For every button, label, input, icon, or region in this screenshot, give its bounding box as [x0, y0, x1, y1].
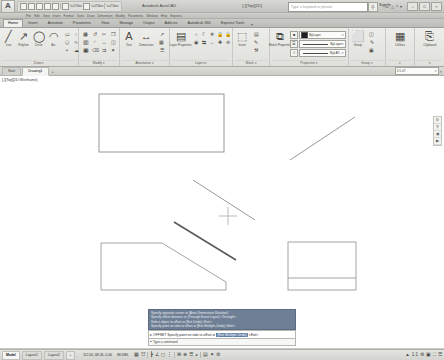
model-space-label[interactable]: MODEL: [117, 353, 129, 357]
annotation-scale-icon[interactable]: ▲: [405, 353, 409, 358]
annotation-scale-value[interactable]: 1:1: [412, 353, 418, 358]
tab-annotate[interactable]: Annotate: [43, 19, 68, 27]
chevron-down-icon-lt[interactable]: ▾: [342, 51, 344, 55]
panel-title-layers[interactable]: Layers ▾: [172, 60, 230, 66]
help-icon[interactable]: ?: [396, 5, 398, 9]
tab-manage[interactable]: Manage: [114, 19, 138, 27]
undo-icon[interactable]: [62, 3, 69, 10]
grid-icon[interactable]: ▦: [134, 353, 139, 358]
menu-item-tools[interactable]: Tools: [77, 14, 84, 18]
mtext-icon[interactable]: ☰: [157, 46, 167, 55]
exchange-icon[interactable]: ☷: [385, 5, 389, 9]
line-diagonal-thick[interactable]: [174, 222, 236, 260]
insert-block-button[interactable]: ⬚ Insert: [235, 30, 249, 47]
tab-express-tools[interactable]: Express Tools: [216, 19, 250, 27]
chevron-down-icon-color[interactable]: ▾: [342, 33, 344, 37]
file-tab-start[interactable]: Start: [2, 67, 21, 76]
ribbon-overflow-icon[interactable]: ▾: [249, 23, 255, 27]
minimize-icon[interactable]: –: [407, 2, 418, 11]
tab-view[interactable]: View: [96, 19, 114, 27]
rectangle-right[interactable]: [288, 242, 356, 290]
menu-item-window[interactable]: Window: [146, 14, 157, 18]
ortho-icon[interactable]: ┣: [150, 353, 153, 358]
bell-icon[interactable]: △: [391, 5, 394, 9]
tab-insert[interactable]: Insert: [23, 19, 43, 27]
polar-icon[interactable]: ∠: [155, 353, 159, 358]
layer-properties-button[interactable]: ▤ Layer Properties: [172, 30, 189, 47]
chevron-up-icon[interactable]: ▴: [150, 340, 152, 343]
tab-addins[interactable]: Add-ins: [160, 19, 183, 27]
group-button[interactable]: ⬜ Group: [351, 30, 365, 47]
saveas-icon[interactable]: [44, 3, 51, 10]
lineweight-icon[interactable]: ☰: [290, 40, 298, 48]
command-input[interactable]: ▸ OFFSET Specify point on side to offset…: [148, 330, 296, 339]
tab-parametric[interactable]: Parametric: [68, 19, 96, 27]
open-icon[interactable]: [28, 3, 35, 10]
layout-tab-layout1[interactable]: Layout1: [22, 351, 42, 360]
line-button[interactable]: ╱ Line: [2, 30, 15, 47]
rectangle-large[interactable]: [99, 94, 224, 152]
polygon-chamfered[interactable]: [101, 243, 226, 290]
menu-item-draw[interactable]: Draw: [87, 14, 94, 18]
menu-item-format[interactable]: Format: [63, 14, 73, 18]
otrack-icon[interactable]: ⋮: [167, 353, 172, 358]
osnap-icon[interactable]: ◻: [161, 353, 165, 358]
menu-item-insert[interactable]: Insert: [53, 14, 61, 18]
workspace-icon[interactable]: ⚙: [420, 353, 424, 358]
arc-button[interactable]: ◠ Arc: [47, 30, 60, 47]
clipboard-button[interactable]: ⎘ Clipboard: [419, 30, 441, 47]
save-icon[interactable]: [36, 3, 43, 10]
utilities-button[interactable]: ▦ Utilities: [389, 30, 411, 47]
hardware-icon[interactable]: ▣: [426, 353, 431, 358]
tab-autodesk360[interactable]: Autodesk 360: [182, 19, 215, 27]
linetype-icon[interactable]: ≡: [290, 49, 298, 57]
fullscreen-icon[interactable]: ⛶: [433, 353, 436, 358]
panel-title-annotation[interactable]: Annotation ▾: [122, 60, 167, 66]
pan-icon[interactable]: ☪: [434, 117, 441, 124]
color-dropdown[interactable]: ByLayer ▾: [299, 31, 346, 39]
lineweight-dropdown[interactable]: ByLayer ▾: [299, 40, 346, 48]
chevron-down-icon[interactable]: ▾: [400, 5, 402, 9]
text-button[interactable]: A Text: [122, 30, 136, 47]
linetype-dropdown[interactable]: ByLAY... ▾: [299, 49, 346, 57]
line-diagonal-middle[interactable]: [193, 180, 255, 220]
new-tab-icon[interactable]: +: [50, 69, 56, 74]
groupselect-icon[interactable]: ▣: [367, 46, 377, 55]
chevron-down-icon-2[interactable]: \u25be: [91, 4, 103, 8]
panel-title-group[interactable]: Group ▾: [351, 60, 383, 66]
search-input[interactable]: Type a keyword or phrase: [288, 2, 368, 12]
transparency-icon[interactable]: ◕: [195, 353, 198, 358]
match-properties-button[interactable]: ⧉ Match Properties: [272, 30, 288, 47]
dimension-button[interactable]: ↔ Dimension: [138, 30, 155, 47]
panel-title-clipboard[interactable]: ▾: [417, 60, 442, 66]
panel-title-block[interactable]: Block ▾: [235, 60, 267, 66]
application-menu-button[interactable]: A: [1, 0, 15, 13]
drawing-canvas[interactable]: [-][Top][2D Wireframe] ☪ ⚲ ◉: [0, 76, 444, 349]
color-icon[interactable]: ■: [290, 31, 298, 39]
redo-icon[interactable]: [83, 3, 90, 10]
lwt-icon[interactable]: ☰: [189, 353, 193, 358]
qp-icon[interactable]: ▤: [203, 353, 208, 358]
viewport-scale-dropdown[interactable]: 2:1.07 ▾: [395, 67, 439, 75]
menu-item-view[interactable]: View: [43, 14, 50, 18]
line-diagonal-upper-right[interactable]: [290, 117, 355, 160]
menu-item-parametric[interactable]: Parametric: [128, 14, 143, 18]
am-icon[interactable]: ⚙: [216, 353, 220, 358]
tab-home[interactable]: Home: [3, 19, 23, 27]
menu-item-dimension[interactable]: Dimension: [98, 14, 113, 18]
menu-item-edit[interactable]: Edit: [34, 14, 40, 18]
sc-icon[interactable]: ✦: [210, 353, 214, 358]
snap-icon[interactable]: ☷: [141, 353, 145, 358]
file-tab-drawing1[interactable]: Drawing1: [22, 67, 48, 76]
zoom-icon[interactable]: ⚲: [434, 124, 441, 131]
ducs-icon[interactable]: ⊞: [177, 353, 181, 358]
showmotion-icon[interactable]: ▶: [434, 138, 441, 145]
panel-title-draw[interactable]: Draw ▾: [2, 60, 76, 66]
coordinate-display[interactable]: 112.00, 68.26, 0.00: [83, 353, 112, 357]
panel-title-properties[interactable]: Properties ▾: [272, 60, 346, 66]
block-attr-icon[interactable]: ⚒: [251, 46, 261, 55]
orbit-icon[interactable]: ◉: [434, 131, 441, 138]
customize-icon[interactable]: ☰: [438, 353, 442, 358]
chevron-down-icon[interactable]: \u25be: [70, 4, 82, 8]
close-icon-tab[interactable]: ×: [440, 69, 442, 74]
